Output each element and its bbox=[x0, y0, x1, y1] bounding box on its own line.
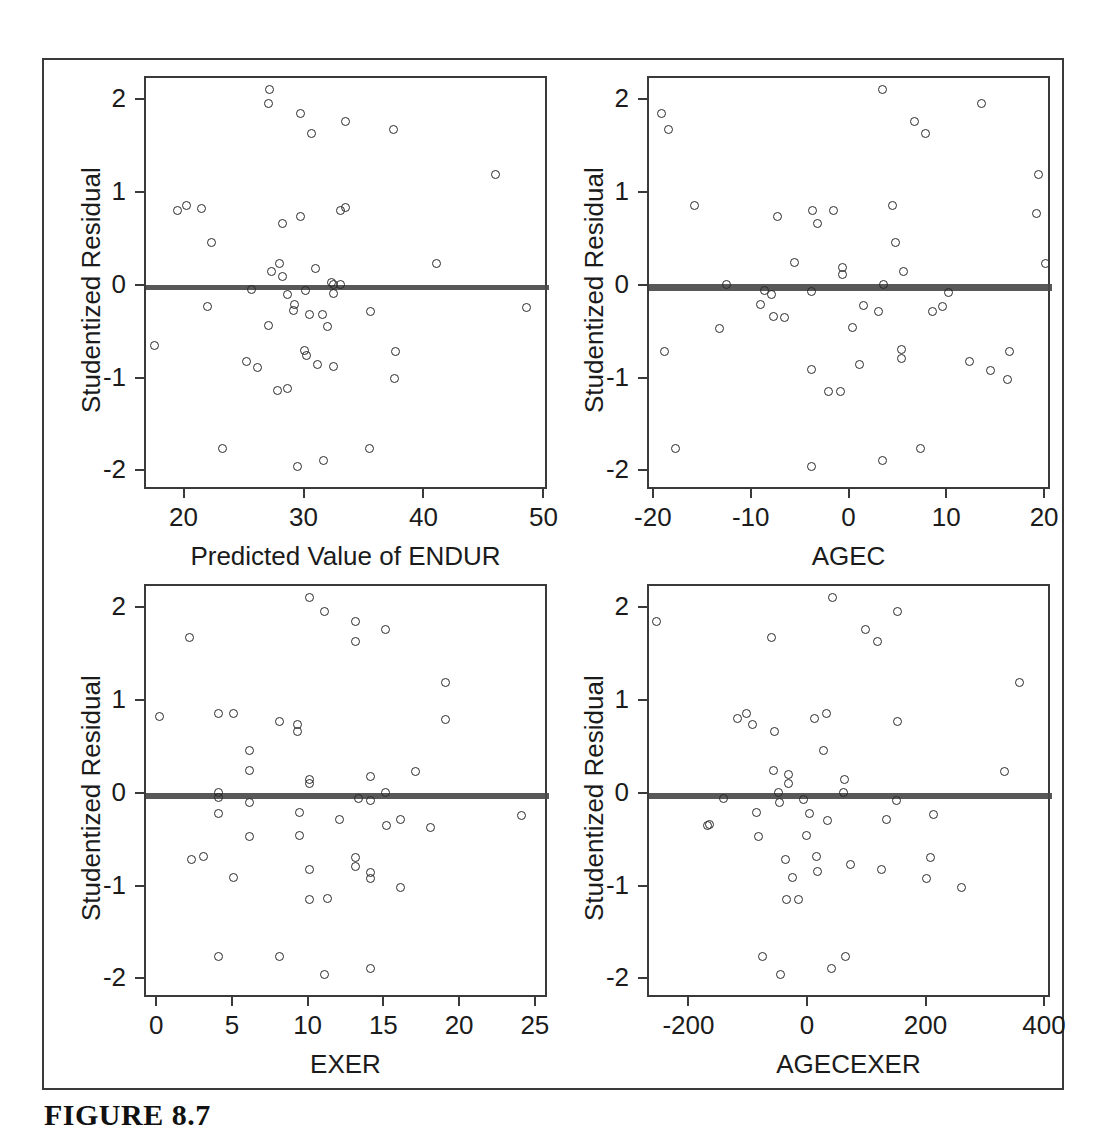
data-point bbox=[926, 853, 935, 862]
data-point bbox=[794, 895, 803, 904]
data-point bbox=[769, 766, 778, 775]
data-point bbox=[840, 775, 849, 784]
x-axis-tick-label: 400 bbox=[994, 1010, 1094, 1041]
data-point bbox=[742, 709, 751, 718]
x-axis-tick bbox=[925, 997, 927, 1006]
data-point bbox=[781, 855, 790, 864]
data-point bbox=[846, 860, 855, 869]
data-point bbox=[893, 717, 902, 726]
data-point bbox=[893, 607, 902, 616]
data-point bbox=[782, 895, 791, 904]
data-point bbox=[703, 821, 712, 830]
data-point bbox=[877, 865, 886, 874]
data-point bbox=[810, 714, 819, 723]
figure-caption: FIGURE 8.7 bbox=[44, 1098, 211, 1133]
data-point bbox=[813, 867, 822, 876]
data-point bbox=[719, 794, 728, 803]
data-point bbox=[784, 770, 793, 779]
data-point bbox=[652, 617, 661, 626]
data-point bbox=[802, 831, 811, 840]
y-axis-tick bbox=[638, 606, 647, 608]
figure-outer-frame: 210-1-220304050Predicted Value of ENDURS… bbox=[42, 58, 1064, 1090]
y-axis-tick-label: 2 bbox=[587, 591, 629, 622]
data-point bbox=[892, 796, 901, 805]
data-point bbox=[812, 852, 821, 861]
data-point bbox=[770, 727, 779, 736]
data-point bbox=[841, 952, 850, 961]
x-axis-tick-label: 0 bbox=[757, 1010, 857, 1041]
x-axis-title: AGECEXER bbox=[647, 1049, 1050, 1080]
data-point bbox=[788, 873, 797, 882]
y-axis-tick bbox=[638, 885, 647, 887]
y-axis-tick-label: -2 bbox=[587, 962, 629, 993]
data-point bbox=[733, 714, 742, 723]
x-axis-tick-label: -200 bbox=[638, 1010, 738, 1041]
plot-area bbox=[647, 584, 1050, 997]
x-axis-tick bbox=[687, 997, 689, 1006]
data-point bbox=[776, 970, 785, 979]
data-point bbox=[861, 625, 870, 634]
data-point bbox=[819, 746, 828, 755]
y-axis-title: Studentized Residual bbox=[579, 675, 610, 921]
data-point bbox=[839, 788, 848, 797]
data-point bbox=[922, 874, 931, 883]
y-axis-tick bbox=[638, 792, 647, 794]
x-axis-tick-label: 200 bbox=[876, 1010, 976, 1041]
scatter-panel-agecexer: 210-1-2-2000200400AGECEXERStudentized Re… bbox=[44, 60, 1062, 1088]
data-point bbox=[805, 809, 814, 818]
data-point bbox=[774, 788, 783, 797]
data-point bbox=[752, 808, 761, 817]
data-point-group bbox=[649, 586, 1048, 995]
data-point bbox=[873, 637, 882, 646]
data-point bbox=[1000, 767, 1009, 776]
x-axis-tick bbox=[1043, 997, 1045, 1006]
data-point bbox=[827, 964, 836, 973]
data-point bbox=[748, 720, 757, 729]
y-axis-tick bbox=[638, 977, 647, 979]
data-point bbox=[929, 810, 938, 819]
data-point bbox=[823, 816, 832, 825]
data-point bbox=[957, 883, 966, 892]
data-point bbox=[822, 709, 831, 718]
data-point bbox=[784, 779, 793, 788]
x-axis-tick bbox=[806, 997, 808, 1006]
data-point bbox=[754, 832, 763, 841]
data-point bbox=[767, 633, 776, 642]
data-point bbox=[799, 795, 808, 804]
data-point bbox=[828, 593, 837, 602]
data-point bbox=[775, 798, 784, 807]
data-point bbox=[882, 815, 891, 824]
data-point bbox=[758, 952, 767, 961]
y-axis-tick bbox=[638, 699, 647, 701]
data-point bbox=[1015, 678, 1024, 687]
